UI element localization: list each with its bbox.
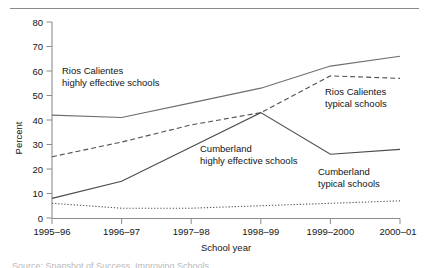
annotation-line-1: Rios Calientes: [325, 86, 386, 97]
annotation-line-1: Cumberland: [318, 166, 370, 177]
annotation-rios-typical: Rios Calientes typical schools: [325, 86, 387, 109]
x-tick-label-1997-98: 1997–98: [173, 226, 210, 237]
annotation-line-2: highly effective schools: [62, 77, 160, 88]
y-tick-marks: [47, 22, 53, 218]
x-tick-label-2000-01: 2000–01: [380, 226, 417, 237]
y-tick-label-30: 30: [32, 139, 43, 150]
y-axis-title: Percent: [13, 121, 24, 154]
annotation-rios-highly-effective: Rios Calientes highly effective schools: [62, 65, 160, 88]
chart-figure: 80 70 60 50 40 30 20 10 0 Percent 1995–9…: [0, 0, 429, 268]
annotation-cumberland-typical: Cumberland typical schools: [318, 166, 380, 189]
y-tick-label-60: 60: [32, 66, 43, 77]
x-axis-title: School year: [201, 242, 251, 253]
source-note-fragment: Source: Snapshot of Success, Improving S…: [12, 261, 312, 268]
annotation-line-1: Cumberland: [200, 143, 252, 154]
line-chart-plot: 80 70 60 50 40 30 20 10 0 Percent 1995–9…: [0, 0, 429, 268]
x-tick-marks: [52, 219, 400, 225]
y-tick-label-10: 10: [32, 188, 43, 199]
x-tick-label-1996-97: 1996–97: [103, 226, 140, 237]
x-tick-label-1999-2000: 1999–2000: [307, 226, 355, 237]
x-tick-label-1995-96: 1995–96: [34, 226, 71, 237]
annotation-line-2: typical schools: [325, 98, 387, 109]
y-tick-label-50: 50: [32, 90, 43, 101]
y-tick-label-40: 40: [32, 115, 43, 126]
annotation-line-2: typical schools: [318, 178, 380, 189]
y-tick-label-0: 0: [38, 213, 43, 224]
annotation-cumberland-highly-effective: Cumberland highly effective schools: [200, 143, 298, 166]
y-tick-label-70: 70: [32, 41, 43, 52]
y-tick-label-80: 80: [32, 17, 43, 28]
annotation-line-2: highly effective schools: [200, 155, 298, 166]
series-line-cumberland-typical: [52, 201, 400, 208]
annotation-line-1: Rios Calientes: [62, 65, 123, 76]
x-tick-label-1998-99: 1998–99: [242, 226, 279, 237]
y-tick-label-20: 20: [32, 164, 43, 175]
